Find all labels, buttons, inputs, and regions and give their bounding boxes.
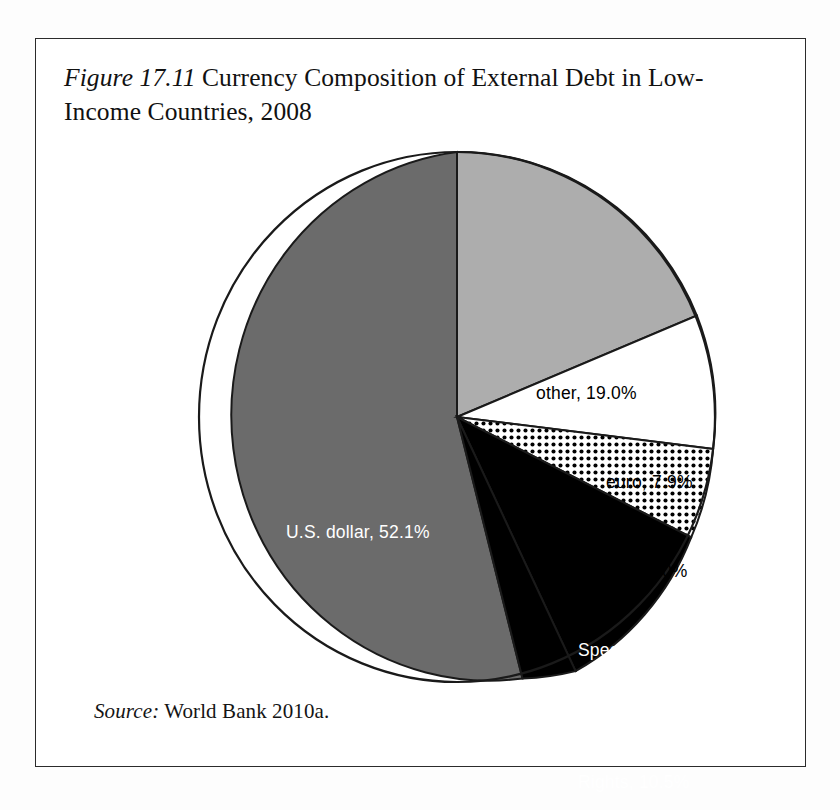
pie-chart: other, 19.0% euro, 7.9% yen, 5.0% Specia… bbox=[81, 119, 761, 699]
source-label: Source: bbox=[94, 699, 159, 723]
source-text: World Bank 2010a. bbox=[159, 699, 329, 723]
pie-label-other: other, 19.0% bbox=[536, 382, 637, 404]
pie-label-us-dollar: U.S. dollar, 52.1% bbox=[286, 521, 430, 543]
pie-label-special-drawings-rights: Special Drawings Rights, 10.5% bbox=[578, 595, 690, 810]
figure-number-label: Figure 17.11 bbox=[64, 63, 196, 92]
pie-label-sdr-line-2: Drawings bbox=[578, 705, 690, 727]
pie-label-sdr-line-1: Special bbox=[578, 639, 690, 661]
source-note: Source: World Bank 2010a. bbox=[94, 699, 329, 724]
figure-frame: Figure 17.11 Currency Composition of Ext… bbox=[35, 38, 806, 767]
pie-label-euro: euro, 7.9% bbox=[606, 471, 693, 493]
figure-page: Figure 17.11 Currency Composition of Ext… bbox=[0, 0, 840, 810]
pie-label-yen: yen, 5.0% bbox=[608, 560, 688, 582]
pie-label-sdr-line-3: Rights, 10.5% bbox=[578, 771, 690, 793]
